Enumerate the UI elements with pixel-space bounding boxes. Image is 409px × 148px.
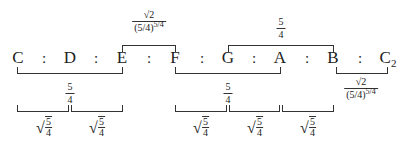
note-d: D [64, 49, 76, 66]
label-sqrt-five-fourths: √ 54 [247, 116, 263, 138]
separator: : [200, 51, 204, 66]
label-sqrt-five-fourths: √ 54 [193, 116, 209, 138]
separator: : [305, 51, 309, 66]
bracket-minor-f-g [175, 105, 227, 112]
bracket-minor-c-d [17, 105, 69, 112]
separator: : [358, 51, 362, 66]
bracket-minor-a-b [282, 105, 334, 112]
label-five-fourths-c-e: 5 4 [66, 82, 75, 105]
label-sqrt-five-fourths: √ 54 [89, 116, 105, 138]
label-sqrt-five-fourths: √ 54 [36, 116, 52, 138]
label-five-fourths-above: 5 4 [277, 17, 286, 40]
bracket-below-c-e [17, 67, 123, 74]
label-five-fourths-f-a: 5 4 [224, 82, 233, 105]
note-c: C [12, 49, 23, 66]
bracket-below-f-a [175, 67, 281, 74]
label-semitone-below: √2 (5/4)5/4 [344, 77, 378, 101]
separator: : [252, 51, 256, 66]
bracket-minor-g-a [229, 105, 280, 112]
label-semitone-above: √2 (5/4)5/4 [132, 10, 166, 34]
bracket-minor-d-e [71, 105, 123, 112]
separator: : [94, 51, 98, 66]
note-c2: C2 [380, 49, 397, 68]
separator: : [42, 51, 46, 66]
bracket-below-b-c2 [336, 67, 388, 74]
separator: : [147, 51, 151, 66]
bracket-above-g-b [228, 45, 334, 52]
label-sqrt-five-fourths: √ 54 [300, 116, 316, 138]
bracket-above-e-f [122, 45, 176, 52]
